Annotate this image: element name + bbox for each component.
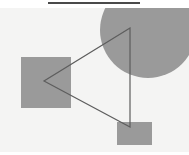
horizontal-rule [48, 2, 140, 4]
figure-container [0, 0, 189, 155]
shapes-canvas [0, 8, 189, 152]
gray-rectangle-bottom-shape [117, 122, 152, 145]
figure-canvas [0, 8, 189, 152]
